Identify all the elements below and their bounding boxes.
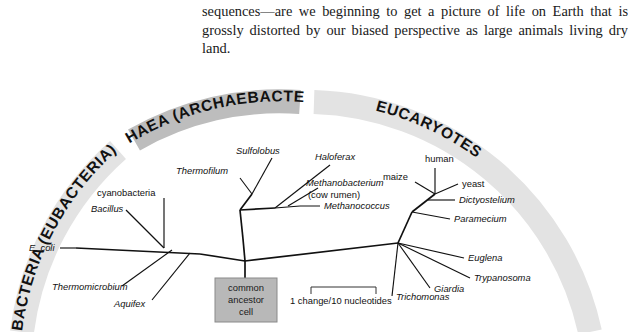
branch-paramecium <box>412 212 450 219</box>
taxon-label-methanococcus: Methanococcus <box>324 200 390 211</box>
branch-trichomonas <box>392 243 398 296</box>
taxon-label-sulfolobus: Sulfolobus <box>236 145 280 156</box>
taxon-label-thermofilum: Thermofilum <box>176 165 228 176</box>
taxon-label-ecoli: E. coli <box>29 242 55 253</box>
taxon-label-human: human <box>425 153 454 164</box>
ancestor-line-3: cell <box>239 306 253 317</box>
taxon-label-thermomicrobium: Thermomicrobium <box>52 281 128 292</box>
body-paragraph: sequences—are we beginning to get a pict… <box>202 2 628 58</box>
scale-bar-label: 1 change/10 nucleotides <box>290 295 392 306</box>
branch-root-to-eucaryotes <box>245 243 398 261</box>
branch-euc-stem <box>398 212 412 243</box>
branch-archaea-spine <box>240 210 243 239</box>
taxon-label-maize: maize <box>383 171 408 182</box>
taxon-label-yeast: yeast <box>462 178 485 189</box>
scale-bar-line <box>311 287 376 294</box>
taxon-label-haloferax: Haloferax <box>315 151 355 162</box>
branch-root-to-bacteria <box>200 254 245 261</box>
branch-thermofilum <box>240 178 252 194</box>
branch-archaea-upper <box>240 194 252 210</box>
taxon-label-methanobacterium: Methanobacterium <box>306 177 384 188</box>
taxon-sublabel-cow-rumen: (cow rumen) <box>308 189 360 200</box>
branch-maize <box>415 182 435 194</box>
ancestor-line-2: ancestor <box>228 294 264 305</box>
branch-thermomicrobium <box>122 250 172 286</box>
taxon-label-trichomonas: Trichomonas <box>396 291 450 302</box>
taxon-label-aquifex: Aquifex <box>113 298 146 309</box>
branch-root-to-archaea <box>243 239 245 261</box>
branch-trypanosoma <box>398 243 470 278</box>
taxon-label-dictyostelium: Dictyostelium <box>459 194 515 205</box>
branch-bacteria-spine <box>76 248 200 254</box>
branch-archaea-lower <box>240 208 275 210</box>
branch-sulfolobus <box>252 158 272 194</box>
branch-yeast <box>435 184 458 194</box>
taxon-label-trypanosoma: Trypanosoma <box>474 272 531 283</box>
taxon-label-euglena: Euglena <box>468 252 502 263</box>
common-ancestor-box: common ancestor cell <box>215 278 277 322</box>
taxon-label-bacillus: Bacillus <box>91 203 124 214</box>
taxon-label-paramecium: Paramecium <box>454 213 507 224</box>
phylogenetic-tree-figure: BACTERIA (EUBACTERIA) ARCHAEA (ARCHAEBAC… <box>0 88 628 332</box>
ancestor-line-1: common <box>228 282 264 293</box>
branch-euc-crown <box>412 194 435 212</box>
taxon-label-cyanobacteria: cyanobacteria <box>97 187 156 198</box>
scale-bar: 1 change/10 nucleotides <box>290 287 392 306</box>
branch-euglena <box>398 243 464 258</box>
branch-bacillus <box>126 210 164 248</box>
branch-methanococcus <box>275 206 300 208</box>
